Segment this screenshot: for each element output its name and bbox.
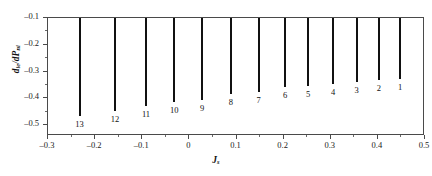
x-tick [47,135,48,139]
x-tick-label: 0.5 [404,140,432,150]
y-tick-label: –0.1 [0,12,39,21]
bar-label: 10 [166,105,182,115]
bar-label: 8 [223,97,239,107]
x-tick [236,135,237,139]
x-tick-label: –0.1 [121,140,161,150]
x-tick-label: 0.2 [263,140,303,150]
bar-stem [332,18,334,84]
x-tick-minor [400,135,401,137]
bar-stem [356,18,358,82]
bar-stem [378,18,380,80]
x-tick-label: 0.4 [357,140,397,150]
y-tick-label: –0.3 [0,66,39,75]
x-tick-label: 0.1 [216,140,256,150]
x-tick [377,135,378,139]
bar-label: 13 [72,119,88,129]
bar-stem [79,18,81,116]
bar-label: 6 [277,90,293,100]
bar-label: 3 [349,85,365,95]
bar-stem [258,18,260,92]
bar-stem [307,18,309,86]
bar-label: 9 [194,103,210,113]
bar-label: 2 [371,83,387,93]
x-tick-minor [306,135,307,137]
bar-stem [284,18,286,87]
x-tick-minor [353,135,354,137]
bar-label: 7 [251,95,267,105]
bar-stem [173,18,175,102]
x-tick [141,135,142,139]
chart-figure: die/dPni –0.1–0.2–0.3–0.4–0.5 1312111098… [0,0,432,176]
x-tick [283,135,284,139]
plot-frame: 13121110987654321 [47,17,424,135]
bar-stem [201,18,203,100]
x-tick-label: 0 [168,140,208,150]
x-tick-minor [212,135,213,137]
bar-label: 11 [138,109,154,119]
bar-label: 1 [392,82,408,92]
bar-label: 5 [300,89,316,99]
x-tick-label: 0.3 [310,140,350,150]
x-tick-label: –0.2 [74,140,114,150]
x-tick-minor [118,135,119,137]
plot-area: 13121110987654321 [48,18,423,134]
bar-stem [114,18,116,111]
x-tick [330,135,331,139]
y-tick-label: –0.4 [0,92,39,101]
bar-stem [145,18,147,106]
bar-stem [399,18,401,79]
bar-label: 12 [107,114,123,124]
bar-stem [230,18,232,94]
x-tick-minor [71,135,72,137]
x-tick [94,135,95,139]
x-tick-minor [165,135,166,137]
y-tick-label: –0.2 [0,39,39,48]
x-axis-title-text: Js [212,155,219,165]
x-axis-title: Js [0,155,432,165]
x-tick [188,135,189,139]
x-tick-label: –0.3 [27,140,67,150]
x-tick-minor [259,135,260,137]
y-tick-label: –0.5 [0,119,39,128]
bar-label: 4 [325,87,341,97]
x-tick [424,135,425,139]
